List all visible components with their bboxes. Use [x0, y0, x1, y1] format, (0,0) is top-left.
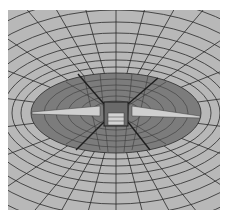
mesh-render — [0, 0, 226, 219]
hole-inner-face — [108, 113, 124, 125]
mesh-image — [0, 0, 226, 219]
